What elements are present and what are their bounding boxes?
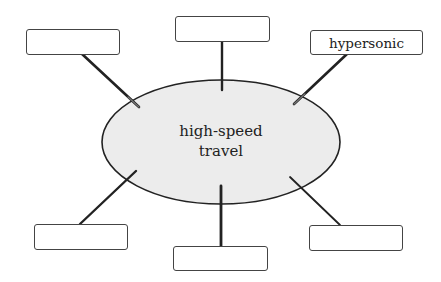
node-top-left: [26, 29, 120, 55]
center-topic: high-speed travel: [150, 121, 292, 161]
node-bottom-center: [173, 246, 268, 271]
node-top-center: [175, 16, 270, 42]
node-top-right-label: hypersonic: [329, 35, 404, 51]
connector-bottom-left: [80, 171, 136, 224]
center-topic-line-1: high-speed: [150, 121, 292, 141]
center-topic-line-2: travel: [150, 141, 292, 161]
connector-bottom-right: [290, 177, 340, 225]
concept-web-diagram: hypersonic high-speed travel: [0, 0, 441, 282]
node-top-right: hypersonic: [310, 30, 423, 55]
node-bottom-left: [34, 224, 128, 250]
node-bottom-right: [309, 225, 403, 251]
